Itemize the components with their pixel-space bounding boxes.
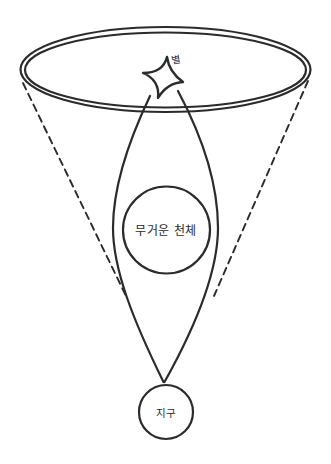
massive-object-label: 무거운 천체	[135, 223, 197, 238]
diagram-svg: 별 무거운 천체 지구	[0, 0, 331, 464]
left-sight-line-dashed	[23, 83, 126, 296]
right-sight-line-dashed	[214, 81, 308, 296]
gravitational-lensing-diagram: 별 무거운 천체 지구	[0, 0, 331, 464]
star-label: 별	[171, 53, 182, 65]
left-light-path	[113, 96, 164, 382]
earth-label: 지구	[156, 407, 176, 419]
